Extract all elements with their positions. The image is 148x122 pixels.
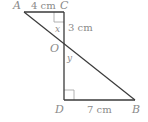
measure-db: 7 cm: [87, 104, 112, 115]
angle-y: y: [66, 53, 73, 63]
angle-x: x: [55, 24, 60, 34]
label-a: A: [12, 0, 21, 12]
measure-ac: 4 cm: [31, 0, 56, 11]
label-b: B: [131, 103, 140, 116]
label-c: C: [60, 0, 69, 12]
geometry-diagram: A C O D B 4 cm 3 cm 7 cm x y: [0, 0, 148, 122]
right-angle-marker-c: [54, 12, 64, 22]
right-angle-marker-d: [64, 90, 74, 100]
label-d: D: [54, 103, 64, 116]
label-o: O: [50, 42, 59, 55]
measure-co: 3 cm: [68, 22, 93, 33]
